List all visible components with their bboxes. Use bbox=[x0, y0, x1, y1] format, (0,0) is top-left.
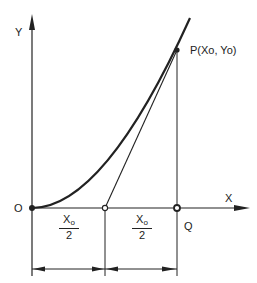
q-label: Q bbox=[184, 221, 193, 232]
parabola-curve bbox=[32, 18, 190, 208]
tangent-line bbox=[105, 50, 177, 208]
x-axis-label: X bbox=[225, 193, 232, 204]
dim-arrow-mid-right-icon bbox=[106, 267, 118, 272]
dim-arrow-left-icon bbox=[33, 267, 45, 272]
x-axis-arrow-icon bbox=[234, 205, 250, 211]
dim-arrow-right-icon bbox=[162, 267, 176, 272]
right-half-dimension-label: Xo 2 bbox=[132, 214, 152, 241]
fraction-denominator: 2 bbox=[139, 230, 145, 241]
y-axis-arrow-icon bbox=[29, 14, 35, 30]
p-point bbox=[174, 47, 179, 52]
fraction-numerator: Xo bbox=[136, 214, 148, 227]
left-half-dimension-label: Xo 2 bbox=[59, 214, 79, 241]
y-axis-label: Y bbox=[15, 27, 22, 38]
diagram-canvas bbox=[0, 0, 257, 283]
q-point bbox=[174, 205, 180, 211]
origin-point bbox=[29, 205, 35, 211]
midpoint-marker bbox=[102, 205, 107, 210]
fraction-numerator: Xo bbox=[63, 214, 75, 227]
dim-arrow-mid-left-icon bbox=[92, 267, 104, 272]
origin-label: O bbox=[14, 203, 23, 214]
fraction-denominator: 2 bbox=[66, 230, 72, 241]
p-label: P(Xo, Yo) bbox=[190, 45, 236, 56]
